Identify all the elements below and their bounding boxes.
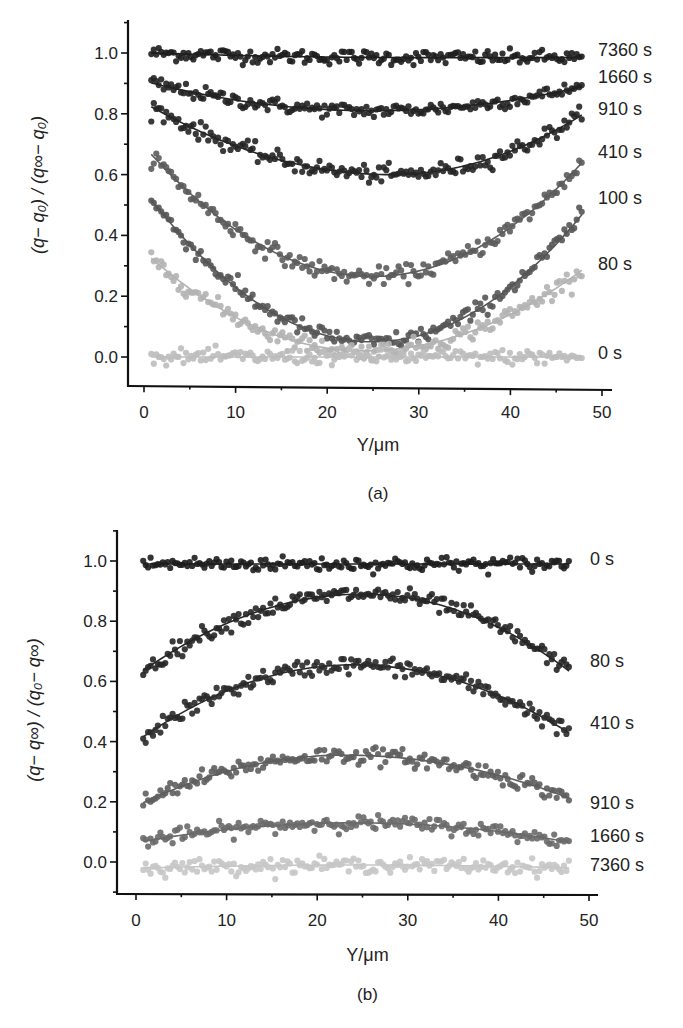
data-point bbox=[418, 58, 424, 64]
data-point bbox=[554, 135, 560, 141]
data-point bbox=[465, 243, 471, 249]
data-point bbox=[375, 812, 381, 818]
data-point bbox=[370, 571, 376, 577]
data-point bbox=[386, 341, 392, 347]
data-point bbox=[316, 360, 322, 366]
data-point bbox=[554, 843, 560, 849]
data-point bbox=[378, 178, 384, 184]
data-point bbox=[355, 858, 361, 864]
data-point bbox=[566, 725, 572, 731]
data-point bbox=[245, 137, 251, 143]
y-tick-label: 0.0 bbox=[94, 348, 118, 367]
data-point bbox=[203, 124, 209, 130]
data-point bbox=[497, 823, 503, 829]
data-point bbox=[265, 107, 271, 113]
data-point bbox=[274, 96, 280, 102]
data-point bbox=[195, 192, 201, 198]
y-tick-label: 0.2 bbox=[94, 287, 118, 306]
data-point bbox=[148, 555, 154, 561]
data-point bbox=[341, 656, 347, 662]
series-410s bbox=[140, 656, 572, 746]
x-tick-label: 40 bbox=[501, 403, 520, 422]
data-point bbox=[465, 324, 471, 330]
data-point bbox=[194, 869, 200, 875]
data-point bbox=[383, 167, 389, 173]
x-tick-label: 40 bbox=[489, 911, 508, 930]
data-point bbox=[267, 337, 273, 343]
data-point bbox=[408, 262, 414, 268]
data-point bbox=[444, 757, 450, 763]
series-label: 410 s bbox=[598, 142, 642, 162]
data-point bbox=[556, 558, 562, 564]
series-label: 7360 s bbox=[598, 40, 652, 60]
x-tick-label: 10 bbox=[226, 403, 245, 422]
data-point bbox=[179, 653, 185, 659]
data-point bbox=[539, 47, 545, 53]
series-label: 910 s bbox=[598, 99, 642, 119]
data-point bbox=[480, 58, 486, 64]
x-tick-label: 20 bbox=[318, 403, 337, 422]
data-point bbox=[198, 119, 204, 125]
data-point bbox=[452, 170, 458, 176]
y-tick-label: 0.8 bbox=[83, 612, 107, 631]
data-point bbox=[576, 104, 582, 110]
data-point bbox=[368, 754, 374, 760]
data-point bbox=[490, 167, 496, 173]
data-point bbox=[267, 59, 273, 65]
data-point bbox=[507, 104, 513, 110]
data-point bbox=[361, 162, 367, 168]
data-point bbox=[214, 685, 220, 691]
data-point bbox=[441, 857, 447, 863]
data-point bbox=[182, 646, 188, 652]
data-point bbox=[267, 856, 273, 862]
data-point bbox=[255, 614, 261, 620]
data-point bbox=[429, 591, 435, 597]
series-label: 0 s bbox=[598, 343, 622, 363]
data-point bbox=[148, 871, 154, 877]
data-point bbox=[405, 281, 411, 287]
data-point bbox=[363, 104, 369, 110]
data-point bbox=[483, 763, 489, 769]
data-point bbox=[331, 276, 337, 282]
y-tick-label: 0.8 bbox=[94, 105, 118, 124]
data-point bbox=[299, 169, 305, 175]
data-point bbox=[307, 337, 313, 343]
data-point bbox=[292, 168, 298, 174]
data-point bbox=[468, 602, 474, 608]
data-point bbox=[200, 350, 206, 356]
data-point bbox=[270, 679, 276, 685]
data-point bbox=[177, 638, 183, 644]
data-point bbox=[236, 691, 242, 697]
data-point bbox=[336, 58, 342, 64]
data-point bbox=[559, 288, 565, 294]
data-point bbox=[368, 819, 374, 825]
series-0s bbox=[140, 553, 572, 577]
data-point bbox=[258, 866, 264, 872]
data-point bbox=[182, 777, 188, 783]
data-point bbox=[302, 256, 308, 262]
data-point bbox=[233, 769, 239, 775]
data-point bbox=[366, 281, 372, 287]
data-point bbox=[245, 674, 251, 680]
data-point bbox=[258, 756, 264, 762]
data-point bbox=[393, 329, 399, 335]
x-tick-label: 10 bbox=[217, 911, 236, 930]
data-point bbox=[299, 48, 305, 54]
y-axis-title: (q− q₀) / (q∞− q₀) bbox=[28, 116, 48, 254]
y-tick-label: 0.2 bbox=[83, 793, 107, 812]
data-point bbox=[297, 348, 303, 354]
data-point bbox=[378, 347, 384, 353]
data-point bbox=[546, 792, 552, 798]
data-point bbox=[270, 610, 276, 616]
data-point bbox=[363, 167, 369, 173]
data-point bbox=[150, 733, 156, 739]
data-point bbox=[151, 161, 157, 167]
series-label: 910 s bbox=[590, 793, 634, 813]
data-point bbox=[373, 175, 379, 181]
data-point bbox=[561, 81, 567, 87]
data-point bbox=[410, 334, 416, 340]
data-point bbox=[230, 232, 236, 238]
data-point bbox=[407, 585, 413, 591]
data-point bbox=[272, 595, 278, 601]
data-point bbox=[250, 292, 256, 298]
